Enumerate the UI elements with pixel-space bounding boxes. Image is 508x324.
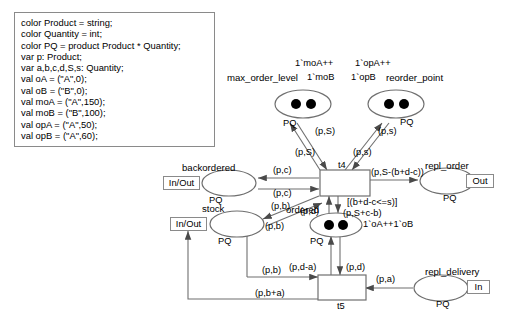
place-label-repl-delivery: repl_delivery [425,266,479,277]
arc-label-ordered-t4: (p,d) [300,206,319,216]
arc-label-t4-ordered: (p,S+c-b) [343,208,382,218]
arc-label-reorder-point-t4-b: (p,s) [378,126,397,136]
cpn-diagram-canvas: color Product = string; color Quantity =… [0,0,508,324]
port-tag-backordered[interactable]: In/Out [163,176,200,190]
arc-label-t5-ordered: (p,d-a) [289,262,316,272]
place-label-max-order-level: max_order_level [227,72,298,83]
transition-label-t5: t5 [337,301,345,311]
arc-label-t4-backordered: (p,c) [273,165,292,175]
port-tag-stock[interactable]: In/Out [170,217,207,231]
token-dot [338,220,348,230]
place-colorset-repl-delivery: PQ [436,299,449,309]
transition-shape-t4[interactable] [320,170,370,196]
place-marking-ordered: 1`oA++1`oB [363,219,413,229]
arc-label-max-order-level-t4-b: (p,S) [315,126,335,136]
place-label-stock: stock [202,203,224,214]
arc-label-t4-stock: (p,b) [265,221,284,231]
arc-label-reorder-point-t4-a: (p,s) [353,147,372,157]
token-dot [291,99,301,109]
place-label-repl-order: repl_order [425,160,469,171]
place-shape-repl-delivery[interactable] [414,275,468,301]
place-colorset-stock: PQ [218,236,231,246]
place-colorset-reorder-point: PQ [400,117,413,127]
arc-label-max-order-level-t4-a: (p,S) [295,147,315,157]
place-colorset-max-order-level: PQ [283,118,296,128]
arc-label-stock-t5: (p,b) [262,265,281,275]
arc-label-ordered-t5: (p,d) [346,262,365,272]
place-marking-reorder-point-line2: 1`opB [351,72,376,82]
place-label-reorder-point: reorder_point [386,72,443,83]
port-tag-repl-order[interactable]: Out [466,174,494,188]
place-marking-reorder-point-line1: 1`opA++ [355,58,391,68]
token-dot [324,220,334,230]
transition-label-t4: t4 [338,160,346,170]
arc-label-stock-t4: (p,b) [271,201,290,211]
place-marking-max-order-level-line1: 1`moA++ [295,58,333,68]
place-shape-reorder-point[interactable] [368,90,424,118]
transition-shape-t5[interactable] [318,275,366,300]
arc-label-t4-repl-order: (p,S-(b+d-c)) [371,167,424,177]
token-dot [384,99,394,109]
place-shape-max-order-level[interactable] [275,90,331,118]
transition-guard-t4: [(b+d-c<=s)] [347,197,397,207]
place-shape-stock[interactable] [210,211,264,237]
arc-label-repl-delivery-t5: (p,a) [376,274,395,284]
place-colorset-ordered: PQ [310,236,323,246]
place-label-backordered: backordered [182,162,235,173]
place-marking-max-order-level-line2: 1`moB [307,72,334,82]
token-dot [399,99,409,109]
place-shape-backordered[interactable] [202,170,256,196]
place-colorset-repl-order: PQ [443,193,456,203]
arc-label-backordered-t4: (p,c) [273,188,292,198]
token-dot [306,99,316,109]
port-tag-repl-delivery[interactable]: In [467,280,490,294]
arc-label-t5-stock: (p,b+a) [255,288,285,298]
